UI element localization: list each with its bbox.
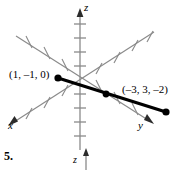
point-label-left: (1, –1, 0)	[9, 69, 49, 80]
figure-container: z x y (1, –1, 0) (–3, 3, –2) 5. z	[0, 0, 174, 170]
z-axis-arrowhead-icon	[77, 8, 84, 17]
problem-number: 5.	[4, 150, 13, 162]
line-segment	[54, 74, 169, 115]
next-figure-z-axis-label: z	[73, 155, 77, 165]
point-label-right: (–3, 3, –2)	[122, 84, 168, 95]
z-axis-label: z	[84, 2, 88, 13]
y-axis-arrowhead-icon	[144, 114, 154, 124]
next-figure-z-arrowhead-icon	[83, 148, 89, 156]
x-axis-label: x	[8, 120, 13, 131]
next-figure-z-axis	[83, 148, 89, 170]
point-marker-left	[54, 74, 61, 81]
point-marker-mid	[103, 91, 110, 98]
y-axis-label: y	[138, 120, 143, 131]
point-marker-right	[162, 108, 169, 115]
